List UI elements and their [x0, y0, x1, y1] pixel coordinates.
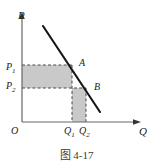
point-label-a: A [79, 58, 85, 68]
tick-label-q1-sub: 1 [71, 131, 75, 139]
figure-caption: 图 4-17 [0, 148, 153, 163]
point-label-b: B [94, 82, 100, 92]
tick-label-p2: P2 [6, 81, 16, 94]
origin-label: O [11, 126, 18, 136]
y-axis-label: P [18, 10, 25, 21]
tick-label-p1-sub: 1 [12, 67, 16, 75]
tick-label-p2-sub: 2 [12, 86, 16, 94]
x-axis-label: Q [139, 126, 147, 137]
tick-label-q2: Q2 [79, 126, 90, 139]
tick-label-p1: P1 [6, 62, 16, 75]
tick-label-q1: Q1 [64, 126, 75, 139]
x-axis-arrow-icon [133, 119, 141, 124]
figure-canvas [0, 0, 153, 163]
shaded-region-lower [72, 88, 86, 122]
tick-label-q2-sub: 2 [86, 131, 90, 139]
shaded-region-upper [22, 65, 72, 88]
demand-curve-figure: P Q O P1 P2 Q1 Q2 A B 图 4-17 [0, 0, 153, 163]
